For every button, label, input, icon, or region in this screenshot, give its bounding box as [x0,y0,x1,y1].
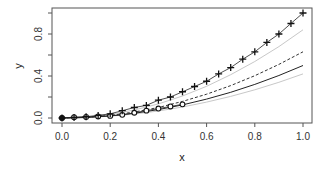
origin-marker [59,115,65,121]
plus-marker [83,113,90,120]
circle-marker [180,102,185,107]
dashed-fit-line [62,52,303,118]
plus-marker [215,70,222,77]
x-axis: 0.00.20.40.60.81.0 [55,123,310,142]
circle-marker [144,108,149,113]
x-axis-title: x [179,151,185,163]
series-layer [59,10,307,122]
y-axis: 0.00.40.8 [33,13,52,125]
plus-marker [179,88,186,95]
plus-marker [239,56,246,63]
plus-marker [227,64,234,71]
x-tick-label: 0.6 [200,131,214,142]
plus-marker [191,83,198,90]
x-tick-label: 0.2 [103,131,117,142]
x-tick-label: 0.8 [248,131,262,142]
circle-marker [156,106,161,111]
circle-marker [132,110,137,115]
plus-marker [263,39,270,46]
chart: 0.00.20.40.60.81.0 0.00.40.8 x y [0,0,329,169]
y-tick-label: 0.0 [33,111,44,125]
plus-marker [71,114,78,121]
plus-marker [203,78,210,85]
x-tick-label: 0.4 [151,131,165,142]
x-tick-label: 0.0 [55,131,69,142]
x-tick-label: 1.0 [296,131,310,142]
y-tick-label: 0.4 [33,69,44,83]
circle-marker [168,104,173,109]
y-axis-title: y [12,63,24,69]
y-tick-label: 0.8 [33,27,44,41]
